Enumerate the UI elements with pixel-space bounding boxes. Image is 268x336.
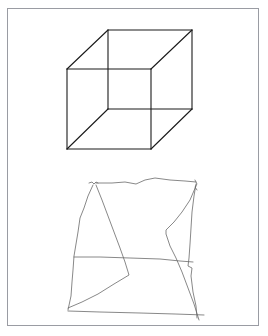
figure-canvas (0, 0, 268, 336)
sketch-inner-right-curve (166, 186, 199, 320)
sketch-bottom-edge (68, 311, 204, 315)
hand-drawn-sketch (68, 178, 204, 320)
necker-cube (67, 30, 192, 149)
cube-connector-bottom-left (67, 109, 108, 149)
sketch-top-edge (96, 178, 196, 184)
sketch-right-edge (188, 184, 197, 318)
sketch-diagonal (68, 185, 129, 308)
cube-connector-top-left (67, 30, 108, 69)
cube-connector-top-right (151, 30, 192, 69)
sketch-middle-line (74, 257, 193, 262)
sketch-left-edge (68, 185, 93, 310)
cube-connector-bottom-right (151, 109, 192, 149)
